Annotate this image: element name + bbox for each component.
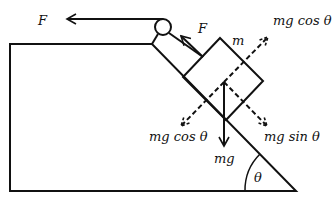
- pulley: [155, 19, 171, 35]
- parallel-component-arrow: [224, 82, 267, 126]
- label-angle: θ: [254, 170, 262, 185]
- label-tension: F: [197, 21, 208, 36]
- incline-diagram: F F m mg cos θ mg cos θ mg sin θ mg θ: [0, 0, 335, 201]
- label-rope-force: F: [37, 13, 48, 28]
- normal-component-up-arrow: [224, 37, 268, 82]
- incline-wedge: [10, 44, 296, 191]
- tension-arrow: [181, 36, 203, 57]
- label-normal-up: mg cos θ: [273, 13, 332, 28]
- label-weight: mg: [214, 151, 235, 166]
- label-mass: m: [232, 33, 244, 48]
- normal-component-down-arrow: [181, 82, 224, 126]
- label-parallel: mg sin θ: [264, 129, 320, 144]
- pulley-strut: [152, 34, 158, 44]
- label-normal-down: mg cos θ: [149, 129, 208, 144]
